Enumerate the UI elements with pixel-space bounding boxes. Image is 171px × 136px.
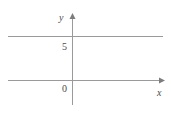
y-tick-label-5: 5 (62, 42, 67, 52)
coordinate-plot (0, 0, 171, 136)
y-axis-arrow-icon (70, 13, 76, 19)
y-axis-label: y (59, 13, 63, 23)
x-axis-arrow-icon (159, 78, 165, 84)
origin-label: 0 (62, 84, 67, 94)
graph-figure: y x 5 0 (0, 0, 171, 136)
x-axis-label: x (157, 88, 161, 98)
